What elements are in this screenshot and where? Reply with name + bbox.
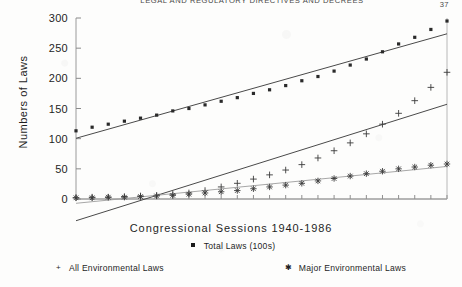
data-point-square [413,36,416,39]
y-tick-label: 300 [49,12,68,24]
chart-caption-block: Congressional Sessions 1940-1986 Total L… [0,222,462,273]
square-marker-icon [187,241,200,249]
data-point-square [268,88,271,91]
data-point-square [332,69,335,72]
legend-item-major-environmental-laws[interactable]: ✱ Major Environmental Laws [282,263,406,273]
data-point-square [284,84,287,87]
y-tick-label: 150 [49,103,68,115]
data-point-square [381,50,384,53]
trend-line [76,166,447,203]
data-point-square [74,129,77,132]
data-point-square [139,117,142,120]
legend-label-major-environmental-laws: Major Environmental Laws [299,263,406,273]
data-point-square [107,123,110,126]
data-point-square [203,103,206,106]
y-tick-label: 200 [49,72,68,84]
legend-row-primary: Total Laws (100s) [0,241,462,251]
legend-label-all-environmental-laws: All Environmental Laws [69,263,164,273]
asterisk-marker-icon: ✱ [282,264,295,272]
series-2 [73,161,450,203]
data-point-square [365,57,368,60]
data-point-square [300,79,303,82]
legend-item-total-laws[interactable]: Total Laws (100s) [187,241,276,251]
trend-line [76,104,447,220]
y-tick-label: 100 [49,133,68,145]
legend-row-secondary: + All Environmental Laws ✱ Major Environ… [0,263,462,273]
data-point-square [397,42,400,45]
data-point-square [349,63,352,66]
trend-line [76,34,447,138]
data-point-square [187,107,190,110]
y-axis-title: Numbers of Laws [17,37,29,167]
data-point-square [316,75,319,78]
y-tick-label: 250 [49,42,68,54]
data-point-square [123,120,126,123]
plus-marker-icon: + [52,264,65,272]
data-point-square [220,100,223,103]
data-point-square [171,109,174,112]
data-point-square [445,19,448,22]
y-tick-label: 50 [55,163,68,175]
series-0 [74,19,448,138]
data-point-square [429,28,432,31]
data-point-square [91,126,94,129]
data-point-square [236,96,239,99]
legend-item-all-environmental-laws[interactable]: + All Environmental Laws [52,263,164,273]
legend-label-total-laws: Total Laws (100s) [204,241,276,251]
y-tick-label: 0 [62,193,68,205]
x-axis-title: Congressional Sessions 1940-1986 [0,222,462,234]
data-point-square [252,92,255,95]
data-point-square [155,114,158,117]
